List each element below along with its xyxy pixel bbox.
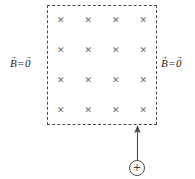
field-marker-icon: ✕: [139, 46, 147, 55]
field-marker-icon: ✕: [84, 76, 92, 85]
field-into-page-marker-grid: ✕ ✕ ✕ ✕ ✕ ✕ ✕ ✕ ✕ ✕ ✕ ✕ ✕ ✕ ✕ ✕: [47, 5, 157, 125]
field-marker-icon: ✕: [112, 46, 120, 55]
field-marker-icon: ✕: [57, 16, 65, 25]
physics-figure: ✕ ✕ ✕ ✕ ✕ ✕ ✕ ✕ ✕ ✕ ✕ ✕ ✕ ✕ ✕ ✕ B=0 B=0 …: [0, 0, 195, 179]
field-marker-icon: ✕: [139, 16, 147, 25]
field-marker-icon: ✕: [139, 76, 147, 85]
field-marker-icon: ✕: [112, 16, 120, 25]
field-label-left: B=0: [10, 57, 30, 69]
velocity-arrow-icon: [126, 122, 150, 164]
field-marker-icon: ✕: [84, 16, 92, 25]
field-label-right-symbol: B: [161, 57, 168, 69]
field-label-right: B=0: [161, 57, 181, 69]
field-marker-icon: ✕: [112, 76, 120, 85]
field-marker-icon: ✕: [57, 106, 65, 115]
plus-icon: +: [133, 163, 141, 173]
field-marker-icon: ✕: [57, 46, 65, 55]
positive-charge: +: [129, 160, 145, 176]
field-label-right-value: 0: [176, 57, 182, 69]
field-marker-icon: ✕: [112, 106, 120, 115]
field-label-left-value: 0: [25, 57, 31, 69]
field-marker-icon: ✕: [84, 106, 92, 115]
field-label-left-symbol: B: [10, 57, 17, 69]
field-marker-icon: ✕: [84, 46, 92, 55]
field-marker-icon: ✕: [57, 76, 65, 85]
field-marker-icon: ✕: [139, 106, 147, 115]
